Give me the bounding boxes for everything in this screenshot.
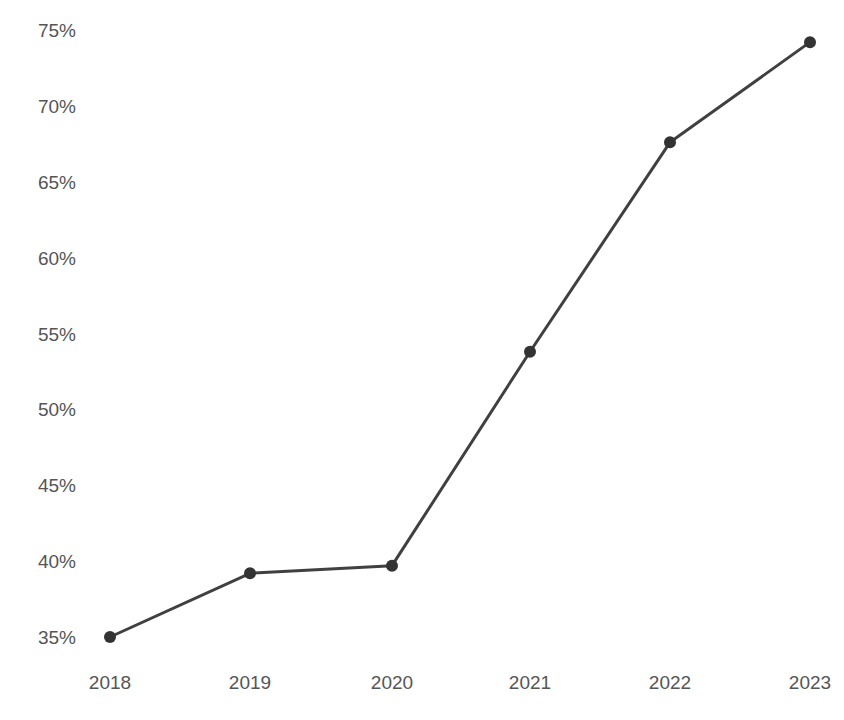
data-point-markers [104,36,816,643]
data-point-marker [524,346,536,358]
data-point-marker [664,136,676,148]
data-point-marker [386,560,398,572]
data-point-marker [804,36,816,48]
data-line-series-1 [110,42,810,637]
plot-area [0,0,844,720]
line-chart: 75% 70% 65% 60% 55% 50% 45% 40% 35% 2018… [0,0,844,720]
data-point-marker [244,567,256,579]
data-point-marker [104,631,116,643]
